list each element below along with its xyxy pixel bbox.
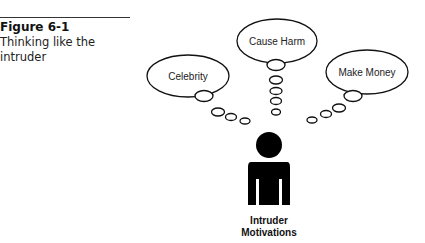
thought-label-cause-harm: Cause Harm (249, 36, 305, 47)
thought-bubble-make-money (307, 50, 408, 123)
thought-label-celebrity: Celebrity (168, 71, 207, 82)
figure-label: Intruder Motivations (230, 215, 308, 239)
figure-label-line1: Intruder (230, 215, 308, 227)
thought-label-make-money: Make Money (338, 67, 395, 78)
thought-bubble-cause-harm (237, 19, 317, 115)
thought-diagram: Celebrity Cause Harm Make Money (0, 0, 425, 243)
person-silhouette-icon (248, 132, 290, 205)
figure-label-line2: Motivations (230, 227, 308, 239)
thought-bubble-celebrity (147, 55, 250, 124)
